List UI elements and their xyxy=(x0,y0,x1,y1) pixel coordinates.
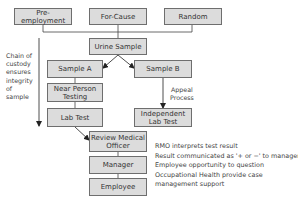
trigger-label: Random xyxy=(179,13,208,21)
node-label-line-1: Independent xyxy=(141,110,185,118)
appeal-process-label: Appeal Process xyxy=(170,86,194,102)
node-label-line-2: Testing xyxy=(63,93,88,101)
label-line: custody xyxy=(6,60,38,68)
node-label-line-1: Review Medical xyxy=(91,134,145,142)
note-line: Employee opportunity to question xyxy=(155,161,298,171)
trigger-for-cause: For-Cause xyxy=(89,8,147,25)
node-sample-b: Sample B xyxy=(134,60,192,78)
node-manager: Manager xyxy=(89,156,147,174)
node-label-line-2: Officer xyxy=(106,142,129,150)
note-line: RMO interprets test result xyxy=(155,142,298,152)
label-line: of xyxy=(6,85,38,93)
label-line: Chain of xyxy=(6,52,38,60)
trigger-label: For-Cause xyxy=(101,13,136,21)
trigger-random: Random xyxy=(164,8,222,25)
node-label: Employee xyxy=(101,183,136,191)
node-independent-lab-test: Independent Lab Test xyxy=(134,108,192,127)
node-review-medical-officer: Review Medical Officer xyxy=(89,131,147,152)
node-employee: Employee xyxy=(89,178,147,196)
node-sample-a: Sample A xyxy=(47,60,103,78)
note-line: management support xyxy=(155,180,298,190)
label-line: Process xyxy=(170,94,194,102)
chain-of-custody-label: Chain of custody ensures integrity of sa… xyxy=(6,52,38,101)
node-label: Lab Test xyxy=(61,114,90,122)
node-near-person-testing: Near Person Testing xyxy=(47,83,103,102)
label-line: ensures xyxy=(6,68,38,76)
outcome-notes: RMO interprets test result Result commun… xyxy=(155,142,298,190)
note-line: Occupational Health provide case xyxy=(155,171,298,181)
node-label: Manager xyxy=(103,161,134,169)
trigger-label: Pre-employment xyxy=(15,9,71,25)
node-label-line-1: Near Person xyxy=(54,85,96,93)
node-lab-test: Lab Test xyxy=(47,108,103,127)
node-label: Sample A xyxy=(58,65,91,73)
label-line: integrity xyxy=(6,77,38,85)
node-label-line-2: Lab Test xyxy=(149,118,178,126)
label-line: sample xyxy=(6,93,38,101)
label-line: Appeal xyxy=(170,86,194,94)
node-urine-sample: Urine Sample xyxy=(89,38,147,55)
trigger-pre-employment: Pre-employment xyxy=(14,8,72,25)
note-line: Result communicated as '+ or −' to manag… xyxy=(155,152,298,162)
node-label: Sample B xyxy=(146,65,179,73)
node-label: Urine Sample xyxy=(94,43,141,51)
